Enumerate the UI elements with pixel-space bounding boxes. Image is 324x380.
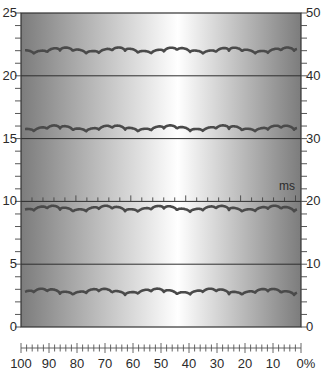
bottom-scale-label: 100 [6,357,36,370]
bottom-scale-label: 80 [62,357,92,370]
bottom-scale-label: 70 [90,357,120,370]
bottom-scale-label: 30 [202,357,232,370]
ms-unit-label: ms [279,180,295,193]
left-axis-label: 25 [1,6,17,19]
bottom-scale-label: 90 [34,357,64,370]
bottom-scale-label: 20 [230,357,260,370]
right-axis-label: 0 [306,320,324,333]
bottom-scale-label: 0% [291,357,321,370]
bottom-scale-label: 60 [118,357,148,370]
diagram-figure: 0510152025 01020304050 10090807060504030… [0,0,324,380]
left-axis-label: 10 [1,194,17,207]
left-axis-label: 15 [1,132,17,145]
right-axis-label: 10 [306,257,324,270]
left-axis-label: 5 [1,257,17,270]
left-axis-ticks [15,13,21,327]
bottom-scale-label: 50 [146,357,176,370]
right-axis-label: 30 [306,132,324,145]
right-axis-ticks [301,13,307,327]
plot-area [0,0,324,380]
gradient-background [21,13,301,327]
right-axis-label: 20 [306,194,324,207]
right-axis-label: 40 [306,69,324,82]
left-axis-label: 0 [1,320,17,333]
bottom-scale-label: 40 [174,357,204,370]
right-axis-label: 50 [306,6,324,19]
left-axis-label: 20 [1,69,17,82]
bottom-percent-ruler [21,343,301,353]
bottom-scale-label: 10 [258,357,288,370]
